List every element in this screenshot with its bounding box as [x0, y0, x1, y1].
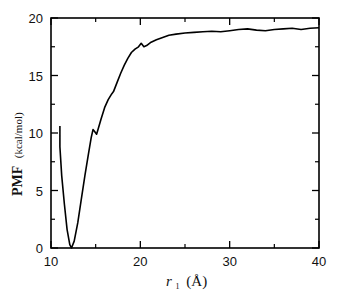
x-tick-label: 10 — [44, 254, 58, 269]
x-tick-label: 20 — [133, 254, 147, 269]
plot-area: 10203040 05101520 — [29, 11, 327, 269]
y-axis-label-main: PMF — [10, 166, 25, 196]
x-axis-label: r 1 (Å) — [166, 273, 207, 292]
y-axis-label: PMF (kcal/mol) — [8, 112, 25, 196]
pmf-chart: 10203040 05101520 PMF (kcal/mol) r 1 (Å) — [0, 0, 337, 297]
y-tick-label: 5 — [36, 184, 43, 199]
y-tick-label: 15 — [29, 69, 43, 84]
plot-frame — [51, 18, 319, 248]
x-axis-label-unit: (Å) — [186, 273, 207, 290]
x-axis-label-subscript: 1 — [176, 282, 180, 291]
y-tick-label: 0 — [36, 241, 43, 256]
y-tick-labels: 05101520 — [29, 11, 43, 256]
y-axis-label-unit: (kcal/mol) — [12, 112, 25, 158]
pmf-curve — [60, 28, 319, 248]
x-tick-label: 40 — [312, 254, 326, 269]
y-tick-label: 20 — [29, 11, 43, 26]
x-axis-label-symbol: r — [166, 273, 172, 289]
y-tick-label: 10 — [29, 126, 43, 141]
axis-ticks — [51, 18, 319, 248]
x-tick-label: 30 — [222, 254, 236, 269]
x-tick-labels: 10203040 — [44, 254, 326, 269]
